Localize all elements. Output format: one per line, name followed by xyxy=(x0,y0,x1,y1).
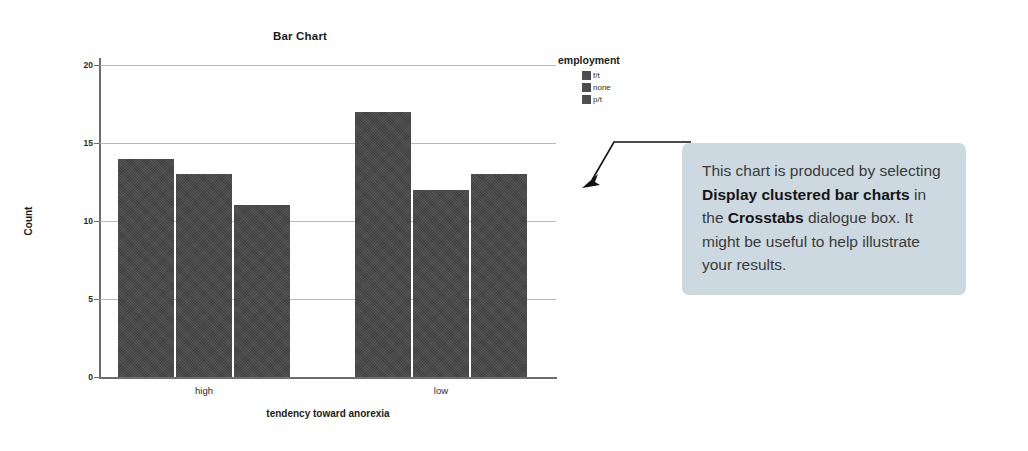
y-tick-mark xyxy=(94,377,100,378)
x-axis-line xyxy=(99,377,557,379)
x-tick-label-low: low xyxy=(434,385,448,396)
y-tick-mark xyxy=(94,221,100,222)
y-axis-title: Count xyxy=(23,207,34,236)
plot-area xyxy=(100,65,556,377)
legend-label: f/t xyxy=(593,72,600,80)
legend-swatch-icon xyxy=(582,95,591,104)
legend-title: employment xyxy=(558,54,666,66)
callout-text: This chart is produced by selecting Disp… xyxy=(702,159,948,277)
legend-item-f/t: f/t xyxy=(582,70,666,81)
bar-low-f/t xyxy=(355,112,411,377)
gridline xyxy=(100,65,556,66)
callout-emphasis: Crosstabs xyxy=(728,209,804,226)
y-tick-mark xyxy=(94,299,100,300)
chart-title: Bar Chart xyxy=(273,30,327,42)
y-axis-tick-labels: 05101520 xyxy=(60,0,93,451)
legend-swatch-icon xyxy=(582,83,591,92)
x-axis-title: tendency toward anorexia xyxy=(266,408,389,419)
callout-plain-text: This chart is produced by selecting xyxy=(702,162,941,179)
x-tick-label-high: high xyxy=(195,385,213,396)
bar-high-none xyxy=(176,174,232,377)
figure-bar-chart-with-callout: Bar Chart Count 05101520 highlow tendenc… xyxy=(0,0,1028,451)
y-tick-label: 5 xyxy=(88,294,93,304)
legend-item-none: none xyxy=(582,82,666,93)
callout-arrow-icon xyxy=(578,136,693,192)
bar-chart: Bar Chart Count 05101520 highlow tendenc… xyxy=(0,0,600,430)
legend: employment f/tnonep/t xyxy=(556,54,666,106)
callout-box: This chart is produced by selecting Disp… xyxy=(682,143,966,295)
y-tick-mark xyxy=(94,143,100,144)
legend-items: f/tnonep/t xyxy=(556,70,666,105)
y-tick-label: 0 xyxy=(88,372,93,382)
bar-low-p/t xyxy=(471,174,527,377)
y-tick-label: 20 xyxy=(84,60,93,70)
bar-low-none xyxy=(413,190,469,377)
gridline xyxy=(100,143,556,144)
legend-swatch-icon xyxy=(582,71,591,80)
bar-high-p/t xyxy=(234,205,290,377)
y-tick-mark xyxy=(94,65,100,66)
legend-item-p/t: p/t xyxy=(582,94,666,105)
y-tick-label: 10 xyxy=(84,216,93,226)
bar-high-f/t xyxy=(118,159,174,377)
y-tick-label: 15 xyxy=(84,138,93,148)
callout-emphasis: Display clustered bar charts xyxy=(702,186,910,203)
legend-label: none xyxy=(593,84,611,92)
legend-label: p/t xyxy=(593,96,602,104)
